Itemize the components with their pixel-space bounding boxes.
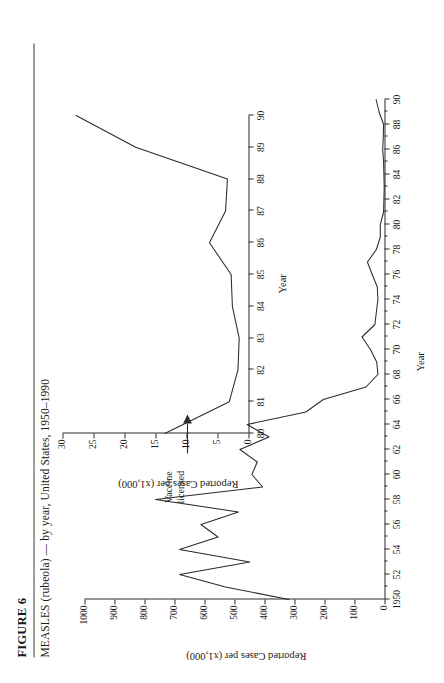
y-tick [124, 433, 125, 438]
x-tick-label: 88 [255, 163, 265, 195]
x-tick [384, 498, 389, 499]
x-tick-label: 86 [255, 226, 265, 258]
x-tick-label: 90 [255, 99, 265, 131]
x-minor-tick [384, 411, 387, 412]
y-tick-label: 400 [258, 605, 268, 643]
y-tick-label: 0 [242, 439, 252, 477]
x-tick [384, 223, 389, 224]
x-tick [384, 248, 389, 249]
x-tick [248, 368, 253, 369]
x-tick-label: 90 [391, 83, 401, 115]
x-tick [384, 523, 389, 524]
x-tick [384, 448, 389, 449]
figure-subtitle: MEASLES (rubeola) — by year, United Stat… [38, 378, 50, 657]
x-tick [248, 209, 253, 210]
y-tick-label: 200 [318, 605, 328, 643]
x-minor-tick [384, 436, 387, 437]
inset-y-axis-label: Reported Cases per (x1,000) [118, 478, 238, 489]
x-tick [248, 178, 253, 179]
inset-chart: 302520151050 8081828384858687888990 Year… [62, 115, 248, 433]
y-tick [234, 599, 235, 604]
x-tick [384, 373, 389, 374]
y-tick [204, 599, 205, 604]
x-minor-tick [384, 286, 387, 287]
x-tick [248, 241, 253, 242]
x-tick [248, 273, 253, 274]
y-tick-label: 15 [149, 439, 159, 477]
y-tick [62, 433, 63, 438]
y-tick [174, 599, 175, 604]
y-tick [264, 599, 265, 604]
main-x-axis-label: Year [414, 352, 425, 371]
inset-series-svg [62, 115, 248, 433]
x-tick-label: 87 [255, 194, 265, 226]
x-tick [384, 173, 389, 174]
main-y-axis-label: Reported Cases per (x1,000) [186, 650, 306, 661]
x-minor-tick [384, 236, 387, 237]
y-tick [324, 599, 325, 604]
x-tick [384, 323, 389, 324]
x-tick-label: 84 [255, 290, 265, 322]
x-minor-tick [384, 361, 387, 362]
x-tick [384, 198, 389, 199]
x-tick [248, 305, 253, 306]
y-tick [114, 599, 115, 604]
x-tick [248, 400, 253, 401]
x-minor-tick [384, 561, 387, 562]
x-tick [384, 548, 389, 549]
y-tick-label: 20 [118, 439, 128, 477]
y-tick-label: 800 [138, 605, 148, 643]
x-tick [384, 598, 389, 599]
x-tick [384, 423, 389, 424]
rotated-figure-canvas: FIGURE 6 MEASLES (rubeola) — by year, Un… [0, 0, 444, 683]
figure-page: FIGURE 6 MEASLES (rubeola) — by year, Un… [0, 0, 444, 683]
x-tick-label: 81 [255, 385, 265, 417]
x-minor-tick [384, 536, 387, 537]
x-tick-label: 83 [255, 322, 265, 354]
x-minor-tick [384, 461, 387, 462]
x-minor-tick [384, 486, 387, 487]
x-minor-tick [384, 511, 387, 512]
y-tick [155, 433, 156, 438]
x-tick [384, 573, 389, 574]
x-tick [384, 398, 389, 399]
x-minor-tick [384, 261, 387, 262]
y-tick-label: 5 [211, 439, 221, 477]
y-tick-label: 300 [288, 605, 298, 643]
y-tick-label: 10 [180, 439, 190, 477]
x-tick [384, 273, 389, 274]
x-tick-label: 89 [255, 131, 265, 163]
x-tick [384, 98, 389, 99]
x-minor-tick [384, 311, 387, 312]
y-tick [294, 599, 295, 604]
y-tick-label: 500 [228, 605, 238, 643]
figure-number: FIGURE 6 [14, 597, 29, 657]
x-tick [384, 473, 389, 474]
x-minor-tick [384, 586, 387, 587]
inset-x-axis-label: Year [276, 274, 287, 293]
x-tick [248, 432, 253, 433]
x-minor-tick [384, 336, 387, 337]
y-tick-label: 1000 [78, 605, 88, 643]
x-tick [384, 148, 389, 149]
y-tick [144, 599, 145, 604]
y-tick [186, 433, 187, 438]
inset-data-line [76, 115, 239, 433]
x-minor-tick [384, 186, 387, 187]
y-tick [248, 433, 249, 438]
x-minor-tick [384, 111, 387, 112]
x-tick [384, 123, 389, 124]
y-tick [93, 433, 94, 438]
x-minor-tick [384, 136, 387, 137]
title-divider [33, 43, 34, 657]
y-tick [217, 433, 218, 438]
y-tick-label: 700 [168, 605, 178, 643]
x-minor-tick [384, 161, 387, 162]
x-tick [248, 337, 253, 338]
x-tick-label: 82 [255, 353, 265, 385]
y-tick [354, 599, 355, 604]
y-tick [84, 599, 85, 604]
y-tick-label: 30 [56, 439, 66, 477]
y-tick-label: 100 [348, 605, 358, 643]
x-tick [248, 114, 253, 115]
